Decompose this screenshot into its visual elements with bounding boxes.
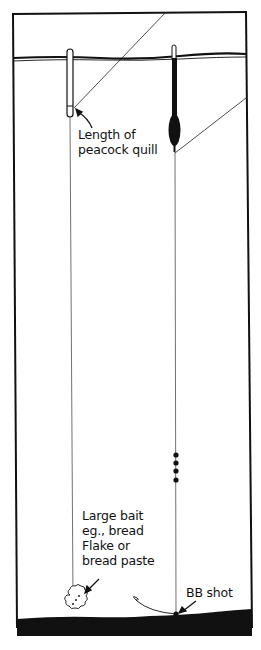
bb-shot-label: BB shot xyxy=(186,585,233,600)
bb-shot-on-bottom xyxy=(134,597,179,617)
quill-label-line2: peacock quill xyxy=(78,142,158,157)
water-surface-line xyxy=(13,53,246,61)
fishing-line-left xyxy=(70,117,73,600)
bread-bait xyxy=(65,585,88,609)
bodied-waggler-float-right xyxy=(169,45,181,152)
bait-label-line4: bread paste xyxy=(82,553,155,568)
bait-label: Large bait eg., bread Flake or bread pas… xyxy=(82,508,155,568)
quill-label-line1: Length of xyxy=(78,127,135,142)
shot-arrowhead-icon xyxy=(179,607,186,613)
bait-label-line1: Large bait xyxy=(82,508,143,523)
quill-arrowhead-icon xyxy=(76,109,82,116)
bait-label-line2: eg., bread xyxy=(82,523,144,538)
bait-label-line3: Flake or xyxy=(82,538,130,553)
fishing-line-right xyxy=(175,152,176,614)
peacock-quill-float-left xyxy=(67,49,73,117)
river-bed xyxy=(17,609,252,636)
quill-label: Length of peacock quill xyxy=(78,127,158,157)
